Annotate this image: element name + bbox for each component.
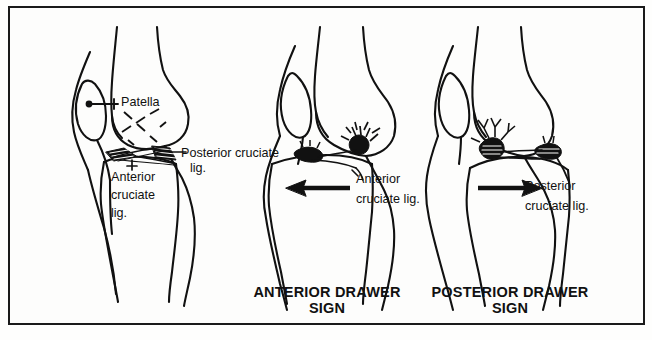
label-posterior-cruciate-lig-normal-line1: Posterior cruciate xyxy=(181,146,279,161)
label-anterior-cruciate-lig-normal-line3: lig. xyxy=(111,206,127,221)
femur-posterior-condyle-2 xyxy=(363,27,395,156)
tibia-medial-border-2 xyxy=(269,164,287,304)
caption-posterior-line1: POSTERIOR DRAWER xyxy=(412,285,608,301)
caption-posterior-drawer-sign: POSTERIOR DRAWER SIGN xyxy=(412,285,608,316)
knee-drawer-sign-figure: Patella Posterior cruciate lig. Anterior… xyxy=(0,0,652,340)
caption-anterior-drawer-sign: ANTERIOR DRAWER SIGN xyxy=(234,285,420,316)
torn-pcl-femoral-stump xyxy=(479,138,504,159)
caption-anterior-line1: ANTERIOR DRAWER xyxy=(234,285,420,301)
label-anterior-cruciate-lig-drawer-line1: Anterior xyxy=(356,172,400,187)
label-posterior-cruciate-lig-drawer-line1: Posterior xyxy=(525,179,575,194)
patellar-tendon-line-3 xyxy=(459,137,461,164)
patella-outline-2 xyxy=(281,73,311,138)
quadriceps-tendon-line-3 xyxy=(435,46,453,136)
panel-anterior-drawer xyxy=(264,27,396,310)
tibia-lateral-border xyxy=(169,164,178,302)
cruciate-crossing-dashes xyxy=(122,109,166,145)
label-posterior-cruciate-lig-normal-line2: lig. xyxy=(190,161,206,176)
label-anterior-cruciate-lig-normal-line1: Anterior xyxy=(111,170,155,185)
label-anterior-cruciate-lig-normal-line2: cruciate xyxy=(111,188,155,203)
caption-anterior-line2: SIGN xyxy=(234,301,420,317)
patella-outline xyxy=(76,81,106,141)
caption-posterior-line2: SIGN xyxy=(412,301,608,317)
label-anterior-cruciate-lig-drawer-line2: cruciate lig. xyxy=(356,192,420,207)
panel-normal-knee xyxy=(72,27,195,306)
label-posterior-cruciate-lig-drawer-line2: cruciate lig. xyxy=(525,199,589,214)
anterior-displacement-arrow xyxy=(286,180,350,196)
femur-posterior-condyle-3 xyxy=(521,27,553,156)
quadriceps-tendon-line-2 xyxy=(277,46,295,136)
patella-outline-3 xyxy=(439,73,469,138)
femur-posterior-condyle xyxy=(157,27,189,146)
panel-posterior-drawer xyxy=(426,27,570,310)
acl-torn-band-lower xyxy=(312,160,356,168)
label-patella: Patella xyxy=(121,95,160,110)
torn-pcl-tibial-stump xyxy=(535,144,562,160)
